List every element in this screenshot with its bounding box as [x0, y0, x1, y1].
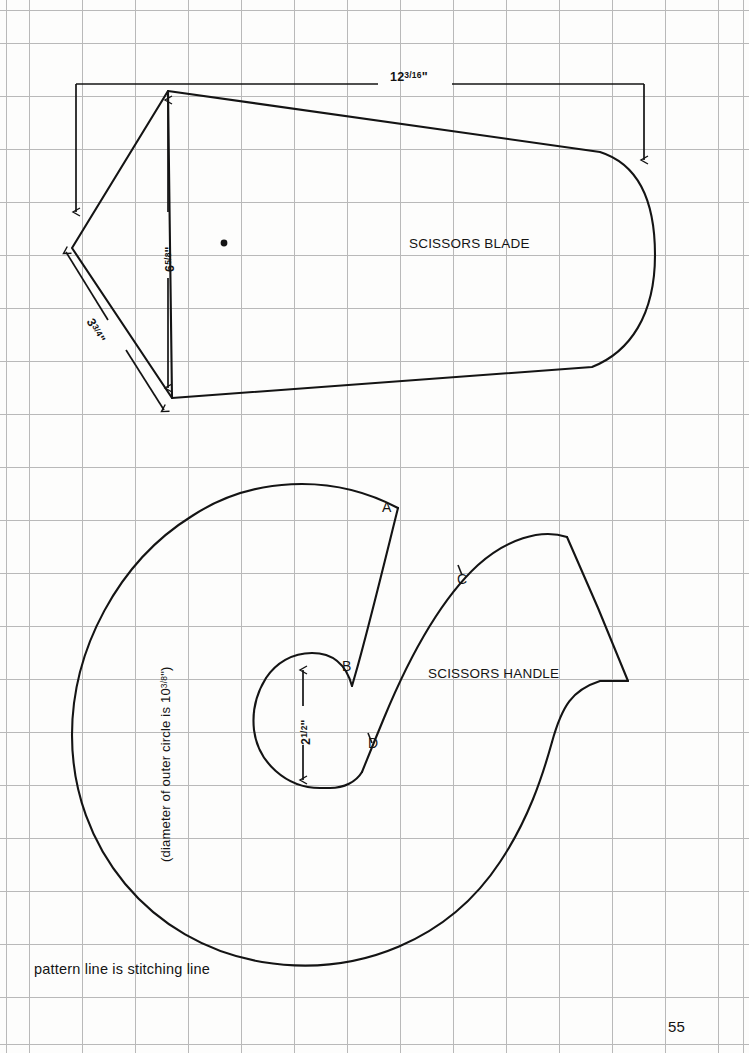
part-label-scissors-blade: SCISSORS BLADE — [409, 236, 530, 251]
point-label-d: D — [368, 735, 378, 751]
dimension-label-blade-length: 123/16" — [390, 70, 428, 84]
scissors-handle-outline — [72, 484, 628, 965]
handle-tail-at-d — [330, 772, 362, 788]
handle-inner-circle-arc — [254, 678, 331, 788]
point-label-a: A — [382, 499, 392, 515]
blade-path-left-point — [72, 91, 172, 398]
pattern-sheet: 123/16" 65/8" 33/4" SCISSORS BLADE A B C… — [0, 0, 749, 1053]
dimension-label-blade-height: 65/8" — [163, 246, 177, 272]
handle-hook-at-b — [266, 653, 352, 686]
scissors-blade-point — [72, 91, 172, 398]
dimension-label-inner-circle: 21/2" — [299, 719, 313, 745]
handle-lower-right-curve — [552, 681, 628, 742]
blade-center-dot — [221, 240, 228, 247]
stitching-line-note: pattern line is stitching line — [34, 961, 210, 977]
pattern-drawing — [0, 0, 749, 1053]
handle-peak-to-d — [362, 534, 567, 772]
grid-layer — [0, 0, 749, 1053]
handle-inner-circle — [254, 678, 331, 788]
dim-diag-line-upper — [66, 252, 108, 320]
grid-vertical-lines — [6, 0, 743, 1053]
point-label-c: C — [457, 571, 467, 587]
grid-horizontal-lines — [0, 10, 749, 1044]
point-tick-marks — [368, 565, 462, 743]
part-label-scissors-handle: SCISSORS HANDLE — [428, 666, 559, 681]
handle-notch-to-peak — [567, 537, 628, 681]
point-label-b: B — [342, 658, 352, 674]
dimension-blade-diagonal — [66, 252, 164, 410]
page-number: 55 — [668, 1018, 685, 1035]
outer-circle-diameter-note: (diameter of outer circle is 103/8") — [158, 666, 173, 862]
handle-inner-edge-a-to-b — [352, 508, 398, 686]
